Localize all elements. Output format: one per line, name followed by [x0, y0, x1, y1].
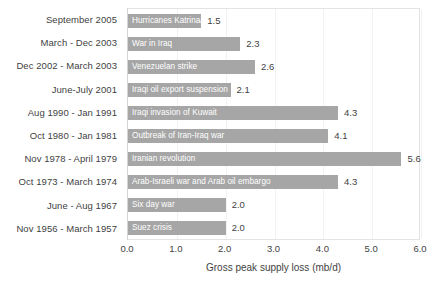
bar-label: Outbreak of Iran-Iraq war — [132, 131, 224, 140]
x-tick-label: 0.0 — [120, 243, 133, 255]
bar-label: War in Iraq — [132, 39, 172, 48]
x-tick-label: 6.0 — [413, 243, 426, 255]
bar[interactable]: Venezuelan strike — [128, 60, 255, 74]
bar[interactable]: Hurricanes Katrina/Rita — [128, 14, 201, 28]
bar-row: Six day war2.0 — [128, 198, 419, 212]
bar-label: Iraqi oil export suspension — [132, 85, 228, 94]
plot-area: Hurricanes Katrina/Rita1.5War in Iraq2.3… — [127, 8, 420, 240]
bar[interactable]: Six day war — [128, 198, 226, 212]
bar-value-label: 2.0 — [232, 222, 245, 233]
gridline — [421, 9, 422, 239]
bar-value-label: 5.6 — [407, 153, 420, 164]
x-axis-title: Gross peak supply loss (mb/d) — [127, 261, 420, 274]
bar-row: Suez crisis2.0 — [128, 221, 419, 235]
bar[interactable]: Iranian revolution — [128, 152, 401, 166]
bar[interactable]: Outbreak of Iran-Iraq war — [128, 129, 328, 143]
category-label: Dec 2002 - March 2003 — [16, 60, 117, 71]
bar[interactable]: War in Iraq — [128, 37, 240, 51]
category-label: June - Aug 1967 — [47, 200, 117, 211]
bar-row: Iranian revolution5.6 — [128, 152, 419, 166]
x-tick-label: 3.0 — [267, 243, 280, 255]
bars-layer: Hurricanes Katrina/Rita1.5War in Iraq2.3… — [128, 9, 419, 239]
bar[interactable]: Suez crisis — [128, 221, 226, 235]
category-label: Nov 1956 - March 1957 — [16, 223, 117, 234]
category-label: June-July 2001 — [52, 84, 117, 95]
category-label: Aug 1990 - Jan 1991 — [28, 107, 117, 118]
bar-value-label: 2.3 — [246, 38, 259, 49]
category-label: Oct 1980 - Jan 1981 — [30, 130, 117, 141]
bar-label: Iranian revolution — [132, 154, 195, 163]
bar-value-label: 4.1 — [334, 130, 347, 141]
bar-value-label: 2.6 — [261, 61, 274, 72]
bar-row: War in Iraq2.3 — [128, 37, 419, 51]
bar-row: Venezuelan strike2.6 — [128, 60, 419, 74]
bar-value-label: 2.0 — [232, 199, 245, 210]
x-tick-label: 2.0 — [218, 243, 231, 255]
category-label: September 2005 — [46, 14, 117, 25]
bar-label: Venezuelan strike — [132, 62, 197, 71]
bar-row: Arab-Israeli war and Arab oil embargo4.3 — [128, 175, 419, 189]
bar-label: Arab-Israeli war and Arab oil embargo — [132, 177, 271, 186]
bar-row: Hurricanes Katrina/Rita1.5 — [128, 14, 419, 28]
category-label: March - Dec 2003 — [41, 37, 117, 48]
bar-label: Iraqi invasion of Kuwait — [132, 108, 217, 117]
bar-row: Outbreak of Iran-Iraq war4.1 — [128, 129, 419, 143]
bar[interactable]: Arab-Israeli war and Arab oil embargo — [128, 175, 338, 189]
bar-value-label: 4.3 — [344, 107, 357, 118]
category-label: Nov 1978 - April 1979 — [24, 153, 117, 164]
category-axis: September 2005March - Dec 2003Dec 2002 -… — [0, 8, 122, 240]
category-label: Oct 1973 - March 1974 — [19, 176, 117, 187]
bar-label: Six day war — [132, 200, 175, 209]
bar[interactable]: Iraqi oil export suspension — [128, 83, 231, 97]
bar-chart: September 2005March - Dec 2003Dec 2002 -… — [0, 0, 438, 292]
bar[interactable]: Iraqi invasion of Kuwait — [128, 106, 338, 120]
bar-label: Hurricanes Katrina/Rita — [132, 16, 201, 25]
x-tick-label: 5.0 — [365, 243, 378, 255]
bar-value-label: 1.5 — [207, 15, 220, 26]
bar-label: Suez crisis — [132, 223, 172, 232]
bar-row: Iraqi oil export suspension2.1 — [128, 83, 419, 97]
x-tick-label: 4.0 — [316, 243, 329, 255]
bar-value-label: 4.3 — [344, 176, 357, 187]
bar-value-label: 2.1 — [237, 84, 250, 95]
value-axis: 0.01.02.03.04.05.06.0 — [127, 243, 420, 257]
x-tick-label: 1.0 — [169, 243, 182, 255]
bar-row: Iraqi invasion of Kuwait4.3 — [128, 106, 419, 120]
